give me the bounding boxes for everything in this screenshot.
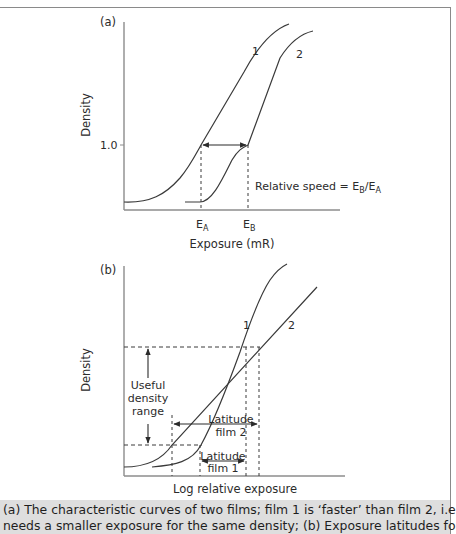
figure-caption: (a) The characteristic curves of two fil… <box>0 500 450 534</box>
panel-a: (a) 1.0 Density Exposure (mR) 1 2 EA EB … <box>79 15 381 251</box>
panel-a-y-label: Density <box>79 93 93 137</box>
panel-b-useful-range-label-3: range <box>132 405 164 418</box>
panel-b-latitude-film-1-label-2: film 1 <box>207 462 238 475</box>
panel-b-curve-film-2 <box>124 287 317 467</box>
panel-b: (b) Density Log relative exposure 1 2 Us… <box>79 263 345 496</box>
panel-b-useful-range-label-1: Useful <box>131 379 165 392</box>
panel-b-curve-2-label: 2 <box>288 319 295 332</box>
panel-a-y-tick-label: 1.0 <box>100 139 118 152</box>
panel-a-tag: (a) <box>100 15 116 29</box>
panel-a-x-label: Exposure (mR) <box>189 237 274 251</box>
panel-a-relative-speed-annotation: Relative speed = EB/EA <box>255 180 381 195</box>
panel-b-y-label: Density <box>79 348 93 392</box>
panel-b-useful-range-label-2: density <box>128 392 169 405</box>
panel-b-latitude-film-2-label-2: film 2 <box>215 426 246 439</box>
panel-b-latitude-film-2-label-1: Latitude <box>208 413 254 426</box>
panel-b-x-label: Log relative exposure <box>173 482 297 496</box>
panel-a-curve-film-2 <box>185 31 313 202</box>
panel-a-eb-marker: EB <box>243 218 255 233</box>
caption-line-2: needs a smaller exposure for the same de… <box>3 518 450 534</box>
figure-diagram: (a) 1.0 Density Exposure (mR) 1 2 EA EB … <box>0 0 456 534</box>
caption-line-1: (a) The characteristic curves of two fil… <box>3 502 450 518</box>
panel-a-curve-2-label: 2 <box>296 48 303 61</box>
panel-a-ea-marker: EA <box>196 218 209 233</box>
panel-b-tag: (b) <box>100 263 116 277</box>
panel-b-curve-1-label: 1 <box>243 319 250 332</box>
panel-a-curve-film-1 <box>124 24 289 202</box>
panel-a-curve-1-label: 1 <box>252 45 259 58</box>
